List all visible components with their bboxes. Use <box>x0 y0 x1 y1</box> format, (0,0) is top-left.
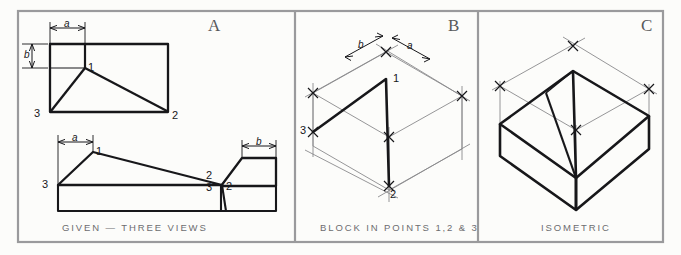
panel-b-arrow-b-left <box>345 56 353 61</box>
figure-canvas <box>0 0 681 255</box>
side-view-group <box>221 140 276 211</box>
panel-a-caption: GIVEN — THREE VIEWS <box>62 222 208 233</box>
panel-c-base-left-face <box>500 124 576 210</box>
isometric-construction-figure: A B C GIVEN — THREE VIEWS BLOCK IN POINT… <box>0 0 681 255</box>
panel-b-dim-label-b: b <box>358 39 364 50</box>
panel-c-ext-top-right <box>563 37 657 94</box>
panel-c-inner-fold-edge <box>546 93 576 178</box>
panel-letter-b: B <box>448 16 459 36</box>
panel-b-group <box>305 33 470 202</box>
top-view-edge-1-to-3 <box>51 68 85 111</box>
panel-c-base-right-face <box>576 116 649 210</box>
panel-b-ext-top-left <box>305 45 398 97</box>
panel-c-ridge-edge <box>546 71 573 93</box>
top-view-group <box>22 22 168 112</box>
top-view-point-label-1: 1 <box>88 61 94 73</box>
top-view-point-label-2: 2 <box>172 109 178 121</box>
panel-b-point-label-3: 3 <box>300 124 306 136</box>
side-view-dim-label-b: b <box>256 136 262 147</box>
front-view-point-label-1: 1 <box>96 145 102 157</box>
top-view-point-label-3: 3 <box>34 107 40 119</box>
panel-c-right-slope-face <box>573 71 649 178</box>
figure-outer-border <box>18 11 663 242</box>
panel-b-caption: BLOCK IN POINTS 1,2 & 3 <box>320 222 479 233</box>
panel-b-dim-label-a: a <box>407 40 413 51</box>
top-view-dim-label-a: a <box>64 18 70 29</box>
panel-b-dim-b-line <box>345 36 383 57</box>
front-view-point-label-3: 3 <box>42 178 48 190</box>
panel-c-tick-apex <box>568 41 578 51</box>
panel-c-diag-left-to-front <box>500 86 576 130</box>
side-view-point-label-2: 2 <box>206 169 212 181</box>
front-view-base-slab <box>58 185 226 211</box>
panel-c-caption: ISOMETRIC <box>541 222 611 233</box>
front-view-point-label-2: 2 <box>226 180 232 192</box>
front-view-triangle <box>58 152 222 185</box>
panel-b-point-label-2: 2 <box>390 188 396 200</box>
side-view-point-label-3: 3 <box>206 181 212 193</box>
panel-b-point-label-1: 1 <box>393 72 399 84</box>
top-view-edge-1-to-2 <box>85 68 167 111</box>
panel-letter-a: A <box>208 16 220 36</box>
panel-b-ext-top-right <box>376 44 470 101</box>
panel-b-blocked-triangle <box>313 79 389 186</box>
panel-c-ext-top-left <box>492 38 585 90</box>
panel-a-group <box>22 22 276 211</box>
panel-letter-c: C <box>641 16 652 36</box>
top-view-dim-label-b: b <box>24 49 30 60</box>
panel-c-left-slope-face <box>500 71 576 178</box>
panel-b-arrow-b-right <box>375 33 383 37</box>
front-view-group <box>58 135 226 211</box>
panel-c-group <box>492 37 657 210</box>
front-view-dim-label-a: a <box>72 132 78 143</box>
